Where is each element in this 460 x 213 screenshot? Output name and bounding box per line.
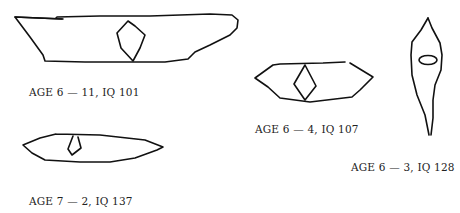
drawing-4-sketch — [0, 120, 200, 180]
figure-drawing-3: AGE 6 — 3, IQ 128 — [345, 10, 460, 185]
figure-drawing-1: AGE 6 — 11, IQ 101 — [0, 0, 250, 100]
caption-drawing-4: AGE 7 — 2, IQ 137 — [29, 195, 133, 207]
figure-drawing-4: AGE 7 — 2, IQ 137 — [0, 120, 200, 213]
drawing-3-sketch — [345, 10, 460, 145]
caption-drawing-1: AGE 6 — 11, IQ 101 — [29, 86, 140, 98]
caption-drawing-2: AGE 6 — 4, IQ 107 — [255, 123, 359, 135]
caption-drawing-3: AGE 6 — 3, IQ 128 — [351, 161, 455, 173]
drawing-1-sketch — [0, 0, 250, 100]
